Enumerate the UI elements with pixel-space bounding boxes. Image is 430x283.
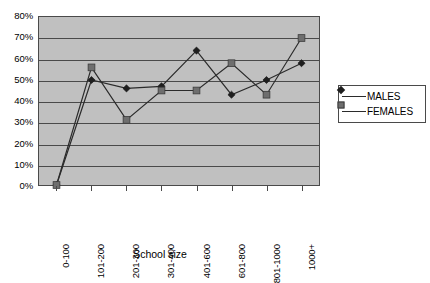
x-axis-tick-5: [232, 186, 233, 191]
x-axis-title: School size: [0, 248, 320, 260]
y-axis-tick-20: 20%: [14, 139, 33, 149]
series-lines: [39, 17, 319, 185]
data-point-males-801-1000: [263, 76, 270, 83]
y-axis-tick-80: 80%: [14, 11, 33, 21]
x-axis-tick-2: [126, 186, 127, 191]
x-axis-tick-labels: 0-100101-200201-300301-400401-600601-800…: [0, 192, 430, 247]
legend-label-males: MALES: [367, 91, 400, 102]
legend-key-diamond-icon: [341, 90, 367, 104]
series-line-females: [57, 38, 302, 185]
data-point-males-1000+: [298, 60, 305, 67]
data-point-females-401-600: [193, 87, 200, 94]
plot-area: [38, 16, 320, 186]
x-axis-tick-6: [267, 186, 268, 191]
x-axis-tick-4: [197, 186, 198, 191]
legend-item-males[interactable]: MALES: [341, 89, 423, 104]
legend-key-square-icon: [341, 105, 367, 119]
legend-label-females: FEMALES: [367, 106, 413, 117]
data-point-females-1000+: [298, 35, 305, 42]
data-point-females-201-300: [123, 117, 130, 124]
x-axis-tick-0: [56, 186, 57, 191]
x-axis-tick-7: [302, 186, 303, 191]
x-axis-tick-3: [161, 186, 162, 191]
data-point-males-201-300: [123, 85, 130, 92]
legend: MALES FEMALES: [338, 85, 426, 123]
y-axis-tick-10: 10%: [14, 160, 33, 170]
data-point-females-801-1000: [263, 91, 270, 98]
y-axis-tick-60: 60%: [14, 54, 33, 64]
x-axis-tick-1: [91, 186, 92, 191]
data-point-females-601-800: [228, 60, 235, 67]
y-axis-tick-50: 50%: [14, 75, 33, 85]
data-point-females-301-400: [158, 87, 165, 94]
y-axis-tick-30: 30%: [14, 118, 33, 128]
legend-item-females[interactable]: FEMALES: [341, 104, 423, 119]
y-axis-tick-0: 0%: [19, 181, 33, 191]
y-axis-tick-40: 40%: [14, 96, 33, 106]
data-point-females-101-200: [88, 64, 95, 71]
y-axis-tick-70: 70%: [14, 33, 33, 43]
